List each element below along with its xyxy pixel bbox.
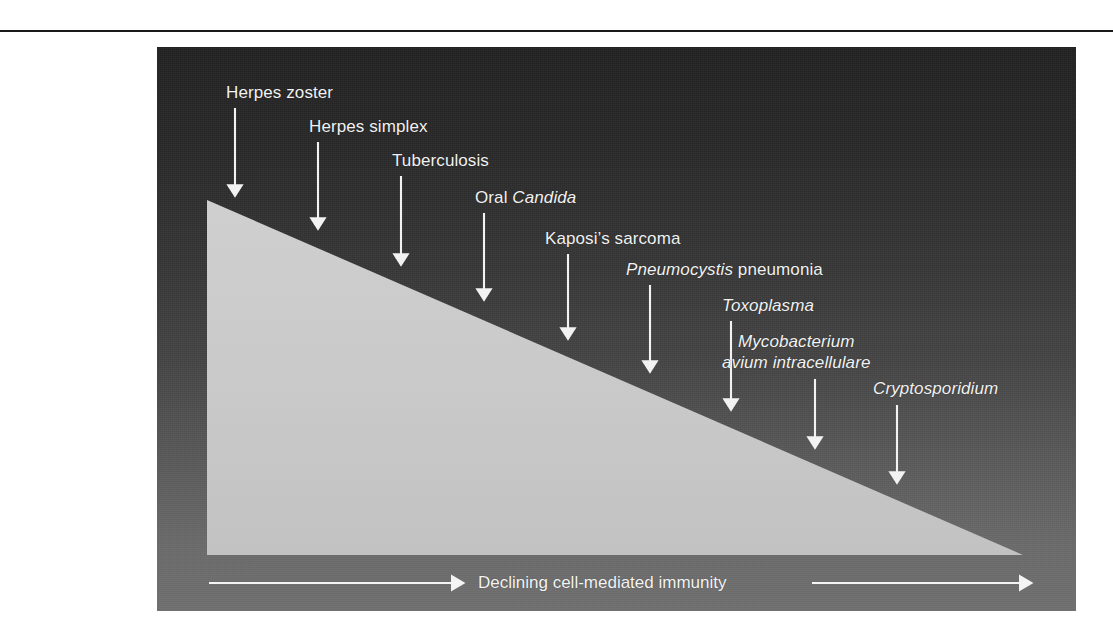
- annotation-label-5: Pneumocystis pneumonia: [626, 259, 823, 280]
- annotation-label-4: Kaposi’s sarcoma: [545, 228, 680, 249]
- label-part: pneumonia: [733, 260, 823, 279]
- label-part: Oral: [475, 188, 512, 207]
- label-part: Candida: [512, 188, 576, 207]
- figure-page: Herpes zosterHerpes simplexTuberculosisO…: [0, 0, 1113, 640]
- figure-graphics: [0, 0, 1113, 640]
- annotation-label-2: Tuberculosis: [392, 150, 489, 171]
- annotation-label-3: Oral Candida: [475, 187, 576, 208]
- label-part: Tuberculosis: [392, 151, 489, 170]
- label-part: Pneumocystis: [626, 260, 733, 279]
- label-part: Herpes simplex: [309, 117, 428, 136]
- annotation-label-7: Mycobacteriumavium intracellulare: [722, 331, 870, 373]
- annotation-label-6: Toxoplasma: [722, 295, 814, 316]
- label-part: Toxoplasma: [722, 296, 814, 315]
- annotation-label-0: Herpes zoster: [226, 82, 333, 103]
- label-part: Herpes zoster: [226, 83, 333, 102]
- annotation-label-8: Cryptosporidium: [873, 378, 998, 399]
- annotation-label-7-line1: Mycobacterium: [722, 331, 870, 352]
- label-part: Cryptosporidium: [873, 379, 998, 398]
- annotation-label-1: Herpes simplex: [309, 116, 428, 137]
- axis-label-declining-immunity: Declining cell-mediated immunity: [478, 573, 726, 593]
- annotation-label-7-line2: avium intracellulare: [722, 352, 870, 373]
- label-part: Kaposi’s sarcoma: [545, 229, 680, 248]
